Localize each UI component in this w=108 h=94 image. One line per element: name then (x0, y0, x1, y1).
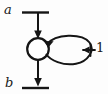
output-label-b: b (5, 76, 13, 89)
diagram-graphics (0, 0, 108, 94)
loop-weight-arrowhead-icon (83, 46, 90, 53)
diagram-canvas: a b 1 (0, 0, 108, 94)
input-label-a: a (4, 3, 12, 16)
loop-weight-label-1: 1 (96, 41, 104, 54)
output-arrowhead-icon (34, 78, 42, 87)
